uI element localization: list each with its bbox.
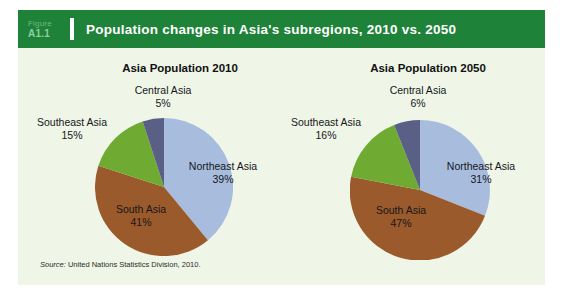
chart-title-2010: Asia Population 2010	[100, 62, 260, 74]
label-percent: 16%	[268, 129, 384, 142]
figure-header-band: Figure A1.1 Population changes in Asia's…	[18, 10, 545, 48]
label-name: Northeast Asia	[418, 160, 544, 173]
source-text: United Nations Statistics Division, 2010…	[66, 260, 201, 269]
pie-2010-label-south-asia: South Asia 41%	[88, 203, 194, 229]
figure-body-panel: Asia Population 2010 Asia Population 205…	[18, 48, 545, 285]
label-name: South Asia	[348, 204, 454, 217]
figure-tag-number: A1.1	[28, 29, 68, 39]
pie-2050-label-south-asia: South Asia 47%	[348, 204, 454, 230]
label-percent: 31%	[418, 173, 544, 186]
label-percent: 6%	[358, 97, 478, 110]
label-name: Central Asia	[358, 84, 478, 97]
page-title: Population changes in Asia's subregions,…	[86, 22, 456, 37]
label-name: Central Asia	[103, 84, 223, 97]
pie-2050-label-southeast-asia: Southeast Asia 16%	[268, 116, 384, 142]
pie-2010-label-central-asia: Central Asia 5%	[103, 84, 223, 110]
pie-2050-label-central-asia: Central Asia 6%	[358, 84, 478, 110]
figure-tag: Figure A1.1	[28, 19, 68, 39]
label-percent: 47%	[348, 217, 454, 230]
label-name: South Asia	[88, 203, 194, 216]
header-divider	[70, 18, 74, 40]
label-name: Northeast Asia	[163, 160, 283, 173]
figure-container: Figure A1.1 Population changes in Asia's…	[0, 0, 567, 300]
label-name: Southeast Asia	[14, 116, 130, 129]
label-percent: 15%	[14, 129, 130, 142]
source-note: Source: United Nations Statistics Divisi…	[40, 260, 201, 269]
label-name: Southeast Asia	[268, 116, 384, 129]
source-keyword: Source:	[40, 260, 66, 269]
chart-title-2050: Asia Population 2050	[348, 62, 508, 74]
label-percent: 39%	[163, 173, 283, 186]
pie-2010-label-northeast-asia: Northeast Asia 39%	[163, 160, 283, 186]
label-percent: 5%	[103, 97, 223, 110]
pie-2010-label-southeast-asia: Southeast Asia 15%	[14, 116, 130, 142]
pie-2050-label-northeast-asia: Northeast Asia 31%	[418, 160, 544, 186]
label-percent: 41%	[88, 216, 194, 229]
